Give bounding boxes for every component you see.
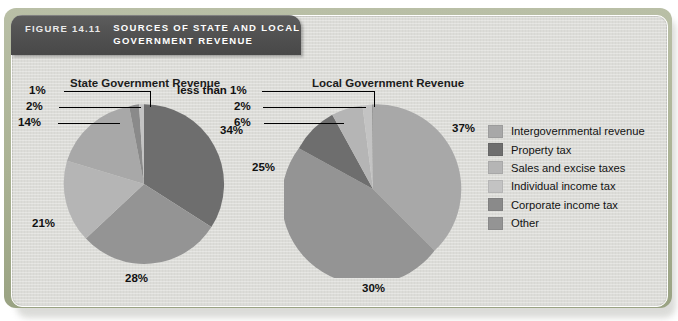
local-leader-2pct: [263, 107, 366, 108]
state-leader-2pct: [59, 107, 141, 108]
state-leader-14pct: [58, 123, 120, 124]
legend-item-label: Individual income tax: [511, 180, 615, 192]
state-label-21pct: 21%: [32, 217, 55, 229]
figure-card: State Government Revenue Local Governmen…: [11, 15, 668, 307]
legend-item-other: Other: [488, 214, 664, 232]
state-label-1pct: 1%: [29, 84, 46, 96]
legend-swatch-icon: [488, 217, 503, 230]
figure-body: State Government Revenue Local Governmen…: [12, 56, 667, 306]
legend-item-label: Sales and excise taxes: [511, 162, 625, 174]
state-leader-1pct: [64, 91, 151, 92]
figure-number: FIGURE 14.11: [25, 22, 101, 34]
figure-container: State Government Revenue Local Governmen…: [0, 0, 678, 321]
legend-swatch-icon: [488, 198, 503, 211]
legend-item-individual-income-tax: Individual income tax: [488, 177, 664, 195]
legend-item-label: Intergovernmental revenue: [511, 125, 645, 137]
figure-header-band: FIGURE 14.11 SOURCES OF STATE AND LOCAL …: [11, 15, 301, 55]
legend-item-label: Property tax: [511, 144, 571, 156]
local-label-37pct: 37%: [452, 122, 475, 134]
local-label-lessthan1pct: less than 1%: [177, 84, 247, 96]
local-label-2pct: 2%: [234, 100, 251, 112]
state-government-revenue-pie: [60, 100, 228, 268]
legend-item-corporate-income-tax: Corporate income tax: [488, 196, 664, 214]
local-leader-lessthan1pct: [262, 91, 375, 92]
local-chart-title: Local Government Revenue: [312, 77, 464, 89]
local-label-30pct: 30%: [362, 282, 385, 294]
legend-swatch-icon: [488, 180, 503, 193]
figure-title: SOURCES OF STATE AND LOCAL GOVERNMENT RE…: [113, 22, 301, 47]
legend-swatch-icon: [488, 161, 503, 174]
state-label-2pct: 2%: [26, 100, 43, 112]
legend: Intergovernmental revenue Property tax S…: [488, 122, 664, 232]
legend-item-intergovernmental-revenue: Intergovernmental revenue: [488, 122, 664, 140]
legend-item-property-tax: Property tax: [488, 140, 664, 158]
state-leader-1pct-v: [150, 91, 151, 107]
local-leader-lessthan1pct-v: [374, 91, 375, 107]
state-label-14pct: 14%: [18, 116, 41, 128]
state-label-28pct: 28%: [125, 272, 148, 284]
local-leader-6pct: [264, 123, 344, 124]
legend-item-label: Corporate income tax: [511, 199, 618, 211]
local-label-6pct: 6%: [234, 116, 251, 128]
local-government-revenue-pie: [284, 100, 462, 278]
legend-swatch-icon: [488, 143, 503, 156]
local-label-25pct: 25%: [252, 161, 275, 173]
legend-item-label: Other: [511, 217, 539, 229]
legend-swatch-icon: [488, 125, 503, 138]
legend-item-sales-and-excise-taxes: Sales and excise taxes: [488, 159, 664, 177]
